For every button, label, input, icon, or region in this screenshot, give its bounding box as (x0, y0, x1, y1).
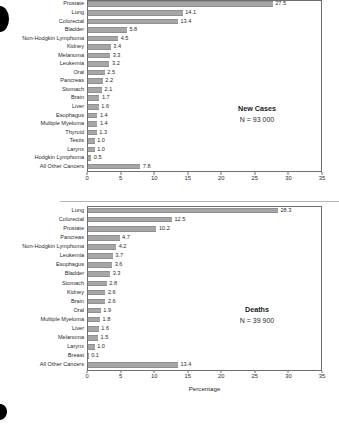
bar (88, 95, 99, 101)
bar-wrapper: 2.6 (88, 288, 322, 297)
axis-tick-label: 10 (151, 176, 157, 182)
bar-value-label: 3.6 (115, 262, 123, 268)
category-label: Melanoma (0, 53, 84, 59)
bar (88, 36, 118, 42)
bar-wrapper: 3.3 (88, 270, 322, 279)
bar-row: Melanoma1.5 (0, 333, 339, 342)
category-label: Stomach (0, 281, 84, 287)
bar-value-label: 2.8 (109, 281, 117, 287)
bar-row: Breast0.1 (0, 352, 339, 361)
axis-tick-label: 30 (285, 374, 291, 380)
bar (88, 317, 100, 323)
bar-wrapper: 2.8 (88, 279, 322, 288)
bar-value-label: 1.7 (102, 95, 110, 101)
bar-wrapper: 3.3 (88, 51, 322, 60)
bar-row: All Other Cancers7.8 (0, 162, 339, 171)
category-label: Oral (0, 308, 84, 314)
x-axis-deaths: 05101520253035 (87, 371, 322, 383)
bar (88, 104, 99, 110)
axis-tick-label: 20 (218, 176, 224, 182)
bar (88, 362, 178, 368)
bar (88, 70, 105, 76)
bar (88, 326, 99, 332)
bar-row: Oral2.5 (0, 68, 339, 77)
bar (88, 308, 101, 314)
category-label: Melanoma (0, 335, 84, 341)
annotation-deaths: Deaths N = 39 900 (215, 305, 299, 326)
bar (88, 235, 120, 241)
bar (88, 121, 97, 127)
bar-row: Hodgkin Lymphoma0.5 (0, 154, 339, 163)
bar-value-label: 4.7 (122, 235, 130, 241)
category-label: Esophagus (0, 262, 84, 268)
bar-value-label: 13.4 (180, 362, 191, 368)
x-axis-new-cases: 05101520253035 (87, 172, 322, 184)
category-label: Thyroid (0, 130, 84, 136)
category-label: Lung (0, 208, 84, 214)
bar-value-label: 7.8 (143, 164, 151, 170)
bar-row: Pancreas4.7 (0, 233, 339, 242)
bar (88, 344, 95, 350)
bar (88, 147, 95, 153)
axis-tick-label: 25 (252, 374, 258, 380)
category-label: Larynx (0, 147, 84, 153)
category-label: Pancreas (0, 235, 84, 241)
bar (88, 290, 105, 296)
category-label: Stomach (0, 87, 84, 93)
bar-wrapper: 2.2 (88, 77, 322, 86)
bar-value-label: 3.4 (113, 44, 121, 50)
bar (88, 335, 98, 341)
bar-row: Leukemia3.7 (0, 251, 339, 260)
bar (88, 113, 97, 119)
axis-tick-label: 10 (151, 374, 157, 380)
bar-value-label: 3.7 (115, 253, 123, 259)
bar-wrapper: 4.2 (88, 242, 322, 251)
category-label: Lung (0, 10, 84, 16)
bar-value-label: 1.5 (101, 335, 109, 341)
bar-value-label: 12.5 (174, 217, 185, 223)
bar-row: Kidney3.4 (0, 43, 339, 52)
bar-value-label: 1.6 (101, 104, 109, 110)
bar-value-label: 3.3 (113, 271, 121, 277)
category-label: Prostate (0, 1, 84, 7)
axis-tick-label: 35 (319, 176, 325, 182)
bar-row: Non-Hodgkin Lymphoma4.5 (0, 34, 339, 43)
category-label: Brain (0, 299, 84, 305)
bar-wrapper: 3.2 (88, 60, 322, 69)
annotation-title: Deaths (215, 305, 299, 316)
bar-row: Stomach2.1 (0, 85, 339, 94)
category-label: Kidney (0, 44, 84, 50)
bar-value-label: 1.8 (103, 317, 111, 323)
bar-value-label: 28.3 (281, 208, 292, 214)
bar-row: Non-Hodgkin Lymphoma4.2 (0, 242, 339, 251)
bar-row: Testis1.0 (0, 137, 339, 146)
bar (88, 262, 112, 268)
bar-row: Colorectal13.4 (0, 17, 339, 26)
bar (88, 138, 95, 144)
axis-tick-label: 0 (85, 374, 88, 380)
bar-wrapper: 1.3 (88, 128, 322, 137)
axis-tick-label: 5 (119, 176, 122, 182)
bar-value-label: 3.3 (113, 53, 121, 59)
bar (88, 244, 116, 250)
bar-row: Esophagus3.6 (0, 261, 339, 270)
bar (88, 53, 110, 59)
bar-value-label: 4.2 (119, 244, 127, 250)
bar-rows-new-cases: Prostate27.5Lung14.1Colorectal13.4Bladde… (0, 0, 339, 171)
bar-row: Larynx1.0 (0, 145, 339, 154)
bar-wrapper: 3.6 (88, 261, 322, 270)
category-label: Prostate (0, 226, 84, 232)
bar-row: Prostate10.2 (0, 224, 339, 233)
category-label: Oral (0, 70, 84, 76)
bar-wrapper: 10.2 (88, 224, 322, 233)
bar-wrapper: 3.4 (88, 43, 322, 52)
annotation-new-cases: New Cases N = 93 000 (215, 104, 299, 125)
bar (88, 155, 91, 161)
category-label: Esophagus (0, 113, 84, 119)
bar (88, 208, 278, 214)
chart-new-cases: Prostate27.5Lung14.1Colorectal13.4Bladde… (0, 0, 339, 200)
axis-tick-label: 25 (252, 176, 258, 182)
bar-value-label: 1.0 (97, 138, 105, 144)
bar-row: Bladder3.3 (0, 270, 339, 279)
bar-wrapper: 2.1 (88, 85, 322, 94)
